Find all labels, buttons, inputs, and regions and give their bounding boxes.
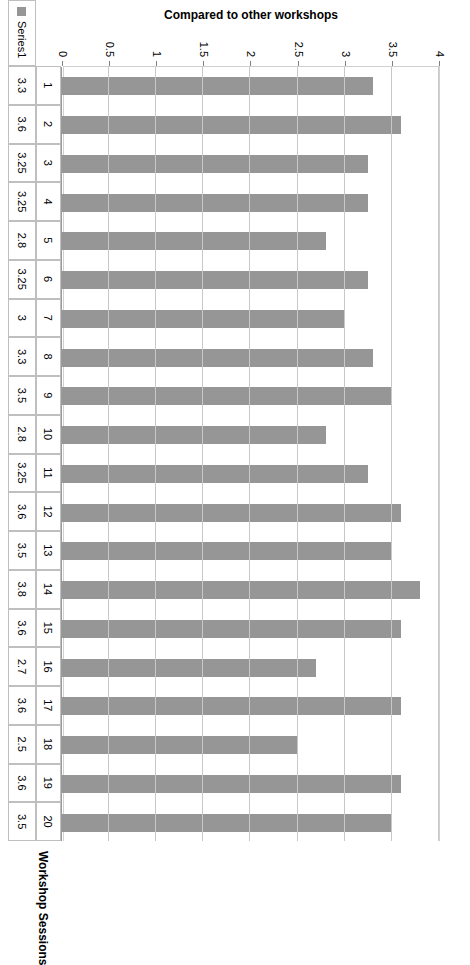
bar-slot [64,416,439,455]
data-table-category-cell: 9 [37,376,60,415]
bar-slot [64,455,439,494]
bar[interactable] [62,504,401,522]
data-table-value-cell: 3.5 [9,531,35,570]
bar-slot [64,338,439,377]
data-table-category-cell: 3 [37,144,60,183]
data-table-category-cell: 4 [37,182,60,221]
bar-slot [64,145,439,184]
value-axis-tick [345,61,346,66]
data-table-value-cell: 3.6 [9,686,35,725]
value-axis-tick [392,61,393,66]
value-axis-tick [298,61,299,66]
data-table-category-cell: 20 [37,802,60,841]
value-axis-tick-label: 3.5 [387,42,399,57]
legend-label-series1: Series1 [16,21,28,58]
data-table-value-cell: 3.3 [9,66,35,105]
data-table-value-cell: 2.8 [9,221,35,260]
gridline [391,67,392,841]
bar[interactable] [62,814,392,832]
value-axis-tick [109,61,110,66]
bar-slot [64,687,439,726]
bar[interactable] [62,116,401,134]
bar-slot [64,67,439,106]
bar[interactable] [62,697,401,715]
plot-area [63,66,440,841]
bar[interactable] [62,736,298,754]
data-table-category-cell: 7 [37,299,60,338]
gridline [108,67,109,841]
bar-slot [64,648,439,687]
bar-slot [64,106,439,145]
legend-swatch-series1 [18,7,27,16]
value-axis-tick [203,61,204,66]
bar-slot [64,300,439,339]
data-table-value-cell: 2.7 [9,647,35,686]
data-table-category-cell: 2 [37,105,60,144]
bar-slot [64,803,439,842]
data-table-category-cell: 13 [37,531,60,570]
value-axis-tick-label: 0.5 [104,42,116,57]
category-axis-title: Workshop Sessions [36,851,50,965]
gridline [438,67,439,841]
bar[interactable] [62,310,345,328]
bar[interactable] [62,659,316,677]
value-axis-tick-label: 1.5 [198,42,210,57]
data-table-value-cell: 3.25 [9,260,35,299]
data-table-value-cell: 3.3 [9,337,35,376]
bar-slot [64,377,439,416]
data-table-value-cell: 3.25 [9,454,35,493]
bar-slot [64,610,439,649]
value-axis-baseline [61,67,62,841]
bar[interactable] [62,232,326,250]
gridline [155,67,156,841]
bar[interactable] [62,387,392,405]
value-axis-tick-label: 1 [151,51,163,57]
bar-slot [64,532,439,571]
bar[interactable] [62,775,401,793]
data-table-category-cell: 5 [37,221,60,260]
bar-slot [64,493,439,532]
bar[interactable] [62,620,401,638]
value-axis-tick [251,61,252,66]
bar-slot [64,183,439,222]
bar-slot [64,571,439,610]
data-table-value-cell: 2.5 [9,725,35,764]
data-table-value-cell: 3.8 [9,570,35,609]
data-table-category-cell: 16 [37,647,60,686]
bar[interactable] [62,581,420,599]
data-table-value-cell: 3.5 [9,376,35,415]
bar-slot [64,765,439,804]
gridline [297,67,298,841]
bar[interactable] [62,542,392,560]
data-table-value-cell: 3.25 [9,144,35,183]
gridline [344,67,345,841]
data-table-category-cell: 8 [37,337,60,376]
bar-slot [64,726,439,765]
data-table-category-cell: 6 [37,260,60,299]
data-table-category-cell: 14 [37,570,60,609]
data-table-category-cell: 15 [37,609,60,648]
bar[interactable] [62,426,326,444]
value-axis-tick-label: 3 [340,51,352,57]
bars-layer [64,67,439,841]
value-axis-tick-label: 2 [246,51,258,57]
data-table-value-cell: 3.25 [9,182,35,221]
data-table-category-cell: 17 [37,686,60,725]
data-table-value-cell: 3.6 [9,609,35,648]
value-axis-tick-label: 4 [434,51,446,57]
value-axis-tick-label: 2.5 [293,42,305,57]
data-table-category-cell: 10 [37,415,60,454]
value-axis-title-wrap: Compared to other workshops [63,0,440,30]
data-table-category-cell: 11 [37,454,60,493]
gridline [202,67,203,841]
bar-slot [64,222,439,261]
data-table-category-cell: 1 [37,66,60,105]
data-table-category-cell: 19 [37,764,60,803]
legend[interactable]: Series1 [8,0,36,66]
data-table-value-cell: 2.8 [9,415,35,454]
data-table-value-cell: 3.5 [9,802,35,841]
data-table-category-cell: 12 [37,492,60,531]
gridline [250,67,251,841]
value-axis-tick [439,61,440,66]
